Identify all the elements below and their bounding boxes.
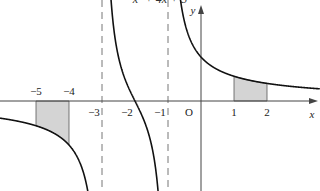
x-tick-label: −1 <box>154 106 166 118</box>
x-axis-label: x <box>309 108 315 120</box>
x-tick-label: 2 <box>264 106 270 118</box>
function-graph: −5−4−3−2−112Oxy <box>0 0 320 191</box>
curve-branch <box>0 118 88 191</box>
origin-label: O <box>185 106 193 118</box>
x-tick-label: −5 <box>30 85 42 97</box>
x-tick-label: −3 <box>88 106 100 118</box>
curve-branch <box>111 0 159 191</box>
x-axis-arrow-icon <box>309 98 318 104</box>
vertical-asymptotes <box>102 0 168 191</box>
y-axis-arrow-icon <box>198 5 204 14</box>
shaded-area <box>36 101 69 145</box>
x-tick-label: −2 <box>121 106 133 118</box>
x-tick-label: 1 <box>231 106 237 118</box>
function-curves <box>0 0 320 191</box>
x-tick-label: −4 <box>63 85 75 97</box>
y-axis-label: y <box>190 4 196 16</box>
